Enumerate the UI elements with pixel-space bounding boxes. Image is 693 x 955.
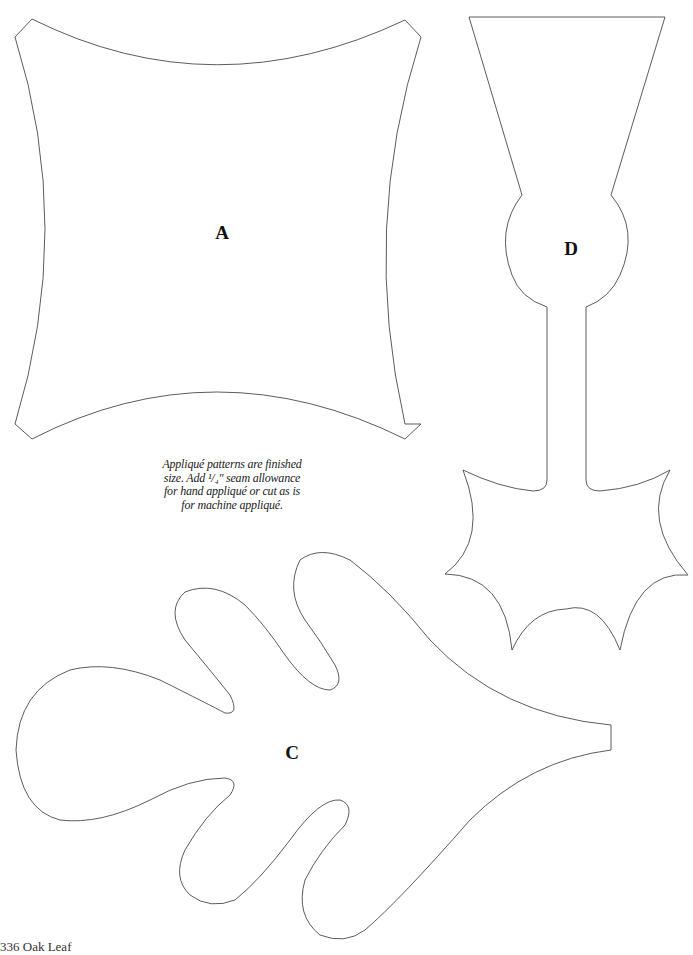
instructions-line-2: size. Add ¹/₄" seam allowance <box>140 472 324 486</box>
shape-a-label: A <box>215 222 229 244</box>
shape-c-label: C <box>285 742 299 764</box>
applique-instructions: Appliqué patterns are finished size. Add… <box>140 458 324 512</box>
pattern-shape-d <box>445 17 688 650</box>
page-footer: 336 Oak Leaf <box>0 939 71 955</box>
shape-d-label: D <box>564 238 578 260</box>
instructions-line-4: for machine appliqué. <box>140 499 324 513</box>
instructions-line-3: for hand appliqué or cut as is <box>140 485 324 499</box>
instructions-line-1: Appliqué patterns are finished <box>140 458 324 472</box>
